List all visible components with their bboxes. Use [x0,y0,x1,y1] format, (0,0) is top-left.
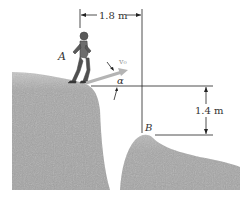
angle-arrowhead-lower-icon [115,87,118,91]
angle-arrowhead-upper-icon [110,67,114,71]
point-b-label: B [144,122,152,133]
arrowhead-down-icon [204,129,208,134]
point-a-label: A [57,50,66,63]
projectile-diagram: A 1.8 m v₀ α 1.4 m B [0,0,246,197]
velocity-label: v₀ [118,57,127,66]
vertical-distance-label: 1.4 m [195,105,224,116]
angle-label: α [117,75,124,86]
person-icon [68,32,91,83]
right-mound [120,135,240,190]
arrowhead-left-icon [81,13,86,17]
arrowhead-right-icon [136,13,141,17]
arrowhead-up-icon [204,87,208,92]
horizontal-distance-label: 1.8 m [99,10,128,21]
left-cliff [12,72,110,190]
